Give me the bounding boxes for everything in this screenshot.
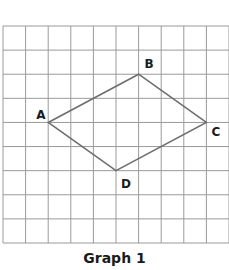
vertex-label-c: C xyxy=(211,125,220,139)
graph-figure: ABCD xyxy=(0,0,229,270)
graph-title: Graph 1 xyxy=(0,250,229,266)
vertex-label-d: D xyxy=(121,177,131,191)
vertex-label-b: B xyxy=(145,57,154,71)
vertex-label-a: A xyxy=(36,108,46,122)
grid-lines xyxy=(3,26,229,243)
